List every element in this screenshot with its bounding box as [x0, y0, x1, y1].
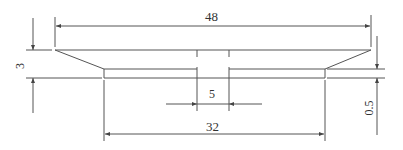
label-5: 5	[209, 88, 215, 100]
label-48: 48	[205, 10, 218, 23]
dimension-0-5	[327, 36, 385, 135]
label-3: 3	[14, 63, 26, 69]
label-0-5: 0.5	[363, 101, 375, 116]
part-outline	[55, 50, 371, 78]
label-32: 32	[206, 120, 219, 133]
dimension-3	[26, 18, 102, 113]
technical-drawing	[0, 0, 403, 150]
